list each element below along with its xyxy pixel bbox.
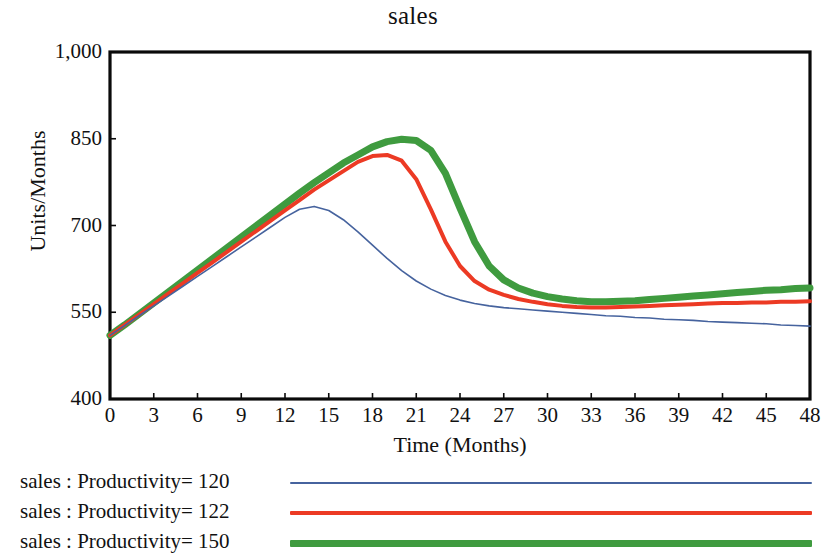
x-tick-label: 36 <box>615 405 655 426</box>
x-axis-title: Time (Months) <box>110 432 810 458</box>
x-tick-label: 39 <box>659 405 699 426</box>
x-tick-label: 27 <box>484 405 524 426</box>
series-line <box>110 206 810 335</box>
x-tick-label: 21 <box>396 405 436 426</box>
x-tick-label: 9 <box>221 405 261 426</box>
legend-swatch-line <box>290 482 812 484</box>
plot-frame <box>110 52 810 399</box>
legend-item[interactable]: sales : Productivity= 150 <box>0 528 826 558</box>
x-tick-label: 15 <box>309 405 349 426</box>
chart-figure: sales Units/Months Time (Months) 4005507… <box>0 0 826 558</box>
series-line <box>110 155 810 335</box>
plot-area <box>0 0 826 468</box>
x-tick-label: 24 <box>440 405 480 426</box>
legend-swatch-line <box>290 540 812 547</box>
y-tick-label: 700 <box>2 215 102 236</box>
x-tick-label: 42 <box>703 405 743 426</box>
legend-item-label: sales : Productivity= 150 <box>20 529 230 554</box>
y-tick-label: 850 <box>2 128 102 149</box>
legend-color-swatch <box>290 540 812 547</box>
legend-item[interactable]: sales : Productivity= 120 <box>0 468 826 498</box>
x-tick-label: 12 <box>265 405 305 426</box>
y-tick-label: 1,000 <box>2 41 102 62</box>
x-tick-label: 0 <box>90 405 130 426</box>
x-tick-label: 48 <box>790 405 826 426</box>
x-tick-label: 3 <box>134 405 174 426</box>
x-tick-label: 45 <box>746 405 786 426</box>
legend-swatch-line <box>290 511 812 515</box>
legend-item-label: sales : Productivity= 120 <box>20 469 230 494</box>
x-tick-label: 6 <box>178 405 218 426</box>
x-tick-label: 30 <box>528 405 568 426</box>
legend-item[interactable]: sales : Productivity= 122 <box>0 498 826 528</box>
legend-color-swatch <box>290 511 812 515</box>
y-tick-label: 400 <box>2 388 102 409</box>
x-tick-label: 18 <box>353 405 393 426</box>
legend-color-swatch <box>290 482 812 484</box>
y-tick-label: 550 <box>2 301 102 322</box>
chart-legend: sales : Productivity= 120sales : Product… <box>0 468 826 558</box>
legend-item-label: sales : Productivity= 122 <box>20 499 230 524</box>
series-line <box>110 139 810 335</box>
x-tick-label: 33 <box>571 405 611 426</box>
